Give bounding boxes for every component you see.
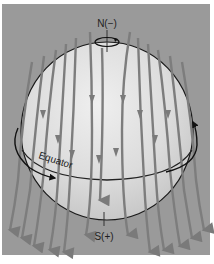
magnetic-sphere-diagram: N(−) S(+) Equator [0,0,214,264]
north-pole-label: N(−) [97,18,117,29]
south-pole-label: S(+) [94,231,113,242]
diagram-canvas: N(−) S(+) Equator [0,0,214,264]
